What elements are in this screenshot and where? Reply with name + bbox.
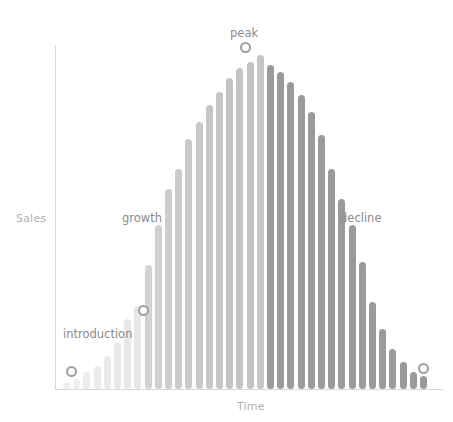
bar bbox=[257, 55, 264, 389]
bar bbox=[420, 376, 427, 389]
annotation-label-growth: growth bbox=[122, 211, 162, 225]
bar bbox=[206, 105, 213, 389]
bar bbox=[287, 82, 294, 389]
bar bbox=[114, 342, 121, 389]
bar bbox=[349, 225, 356, 389]
bar bbox=[185, 139, 192, 390]
bar bbox=[226, 78, 233, 389]
bar bbox=[338, 199, 345, 389]
bar bbox=[104, 356, 111, 389]
bar bbox=[247, 62, 254, 389]
bar bbox=[83, 372, 90, 389]
marker-introduction bbox=[66, 366, 77, 377]
bar bbox=[134, 306, 141, 390]
annotation-label-decline: decline bbox=[340, 211, 381, 225]
bar bbox=[369, 302, 376, 389]
bar bbox=[236, 68, 243, 389]
marker-growth bbox=[138, 305, 149, 316]
bar bbox=[389, 349, 396, 389]
annotation-label-peak: peak bbox=[230, 26, 258, 40]
bar bbox=[318, 135, 325, 389]
bar bbox=[175, 169, 182, 389]
bar bbox=[308, 112, 315, 389]
bar bbox=[328, 169, 335, 389]
bar bbox=[165, 189, 172, 389]
bar bbox=[410, 372, 417, 389]
bar bbox=[63, 382, 70, 389]
marker-decline-end bbox=[418, 363, 429, 374]
bar bbox=[298, 95, 305, 389]
bar bbox=[267, 65, 274, 389]
bar bbox=[400, 362, 407, 389]
bar bbox=[145, 265, 152, 389]
bars-layer bbox=[0, 0, 453, 422]
bar bbox=[379, 329, 386, 389]
product-lifecycle-chart: Sales Time introduction growth peak decl… bbox=[0, 0, 453, 422]
marker-peak bbox=[240, 42, 251, 53]
bar bbox=[94, 366, 101, 389]
bar bbox=[155, 225, 162, 389]
bar bbox=[277, 72, 284, 389]
bar bbox=[216, 92, 223, 389]
bar bbox=[196, 122, 203, 389]
annotation-label-introduction: introduction bbox=[63, 327, 132, 341]
bar bbox=[359, 262, 366, 389]
bar bbox=[73, 379, 80, 389]
